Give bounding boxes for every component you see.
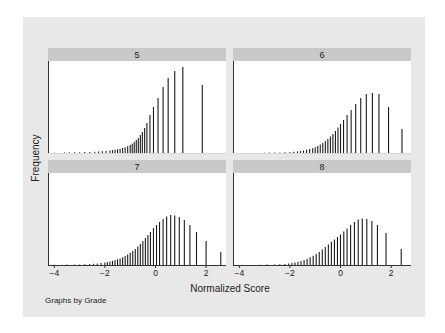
x-tick-label: 0 — [153, 268, 158, 278]
panel-strip-label: 8 — [319, 162, 324, 172]
panel-strip-label: 5 — [134, 50, 139, 60]
plot-area — [233, 61, 411, 153]
panels: 567−4−2028−4−202 — [48, 48, 411, 278]
x-tick-label: 2 — [389, 268, 394, 278]
x-tick-label: −4 — [234, 268, 244, 278]
by-note: Graphs by Grade — [45, 296, 107, 305]
x-tick-label: 2 — [204, 268, 209, 278]
panel-grade-7: 7−4−202 — [48, 160, 226, 278]
x-axis-title: Normalized Score — [190, 283, 270, 294]
y-axis-title: Frequency — [30, 134, 41, 181]
plot-area — [48, 173, 226, 265]
panel-strip-label: 7 — [134, 162, 139, 172]
x-tick-label: −2 — [285, 268, 295, 278]
panel-strip-label: 6 — [319, 50, 324, 60]
x-tick-label: 0 — [338, 268, 343, 278]
chart-canvas: 567−4−2028−4−202 Frequency Normalized Sc… — [0, 0, 445, 333]
panel-grade-5: 5 — [48, 48, 226, 154]
plot-area — [48, 61, 226, 153]
x-tick-label: −4 — [49, 268, 59, 278]
x-tick-label: −2 — [100, 268, 110, 278]
panel-grade-6: 6 — [233, 48, 411, 154]
panel-grade-8: 8−4−202 — [233, 160, 411, 278]
